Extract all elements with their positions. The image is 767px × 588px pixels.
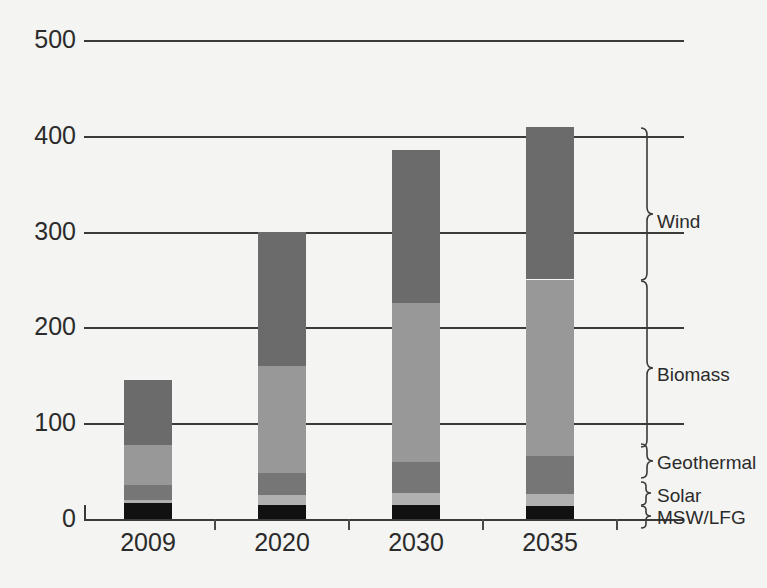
gridline-200	[84, 327, 684, 329]
x-tickmark-2009	[214, 519, 216, 530]
bar-segment	[124, 380, 172, 445]
bar-segment	[526, 127, 574, 279]
y-tick-label: 100	[8, 410, 76, 435]
x-tick-label-2030: 2030	[361, 530, 471, 555]
y-tick-label: 400	[8, 123, 76, 148]
bar-segment	[124, 445, 172, 485]
y-tick-label: 0	[8, 506, 76, 531]
bar-segment	[392, 505, 440, 519]
bar-segment	[392, 493, 440, 504]
y-tick-label: 500	[8, 27, 76, 52]
bar-segment	[258, 232, 306, 366]
axis-line-zero	[84, 519, 684, 521]
bar-segment	[526, 456, 574, 494]
x-tickmark-2030	[482, 519, 484, 530]
bar-segment	[124, 503, 172, 519]
bar-segment	[258, 473, 306, 495]
bar-segment	[526, 494, 574, 505]
bar-segment	[258, 495, 306, 505]
gridline-100	[84, 423, 684, 425]
bar-segment	[124, 500, 172, 503]
x-tickmark-2035	[616, 519, 618, 530]
bar-segment	[526, 506, 574, 519]
gridline-400	[84, 136, 684, 138]
stacked-bar-chart: 500 400 300 200 100 0 2009 2020 2030 203…	[0, 0, 767, 588]
y-tick-label: 200	[8, 314, 76, 339]
x-tickmark-2020	[348, 519, 350, 530]
y-tick-label: 300	[8, 219, 76, 244]
x-tick-label-2035: 2035	[495, 530, 605, 555]
x-tick-label-2020: 2020	[227, 530, 337, 555]
plot-area: 500 400 300 200 100 0 2009 2020 2030 203…	[0, 0, 767, 588]
gridline-500	[84, 40, 684, 42]
bar-segment	[392, 150, 440, 303]
bar-segment	[526, 280, 574, 456]
bar-segment	[258, 505, 306, 519]
bar-segment	[258, 366, 306, 473]
y-axis-spine	[84, 505, 86, 521]
bar-segment	[124, 485, 172, 499]
gridline-300	[84, 232, 684, 234]
x-tick-label-2009: 2009	[93, 530, 203, 555]
bar-segment	[392, 462, 440, 494]
bar-segment	[392, 303, 440, 461]
